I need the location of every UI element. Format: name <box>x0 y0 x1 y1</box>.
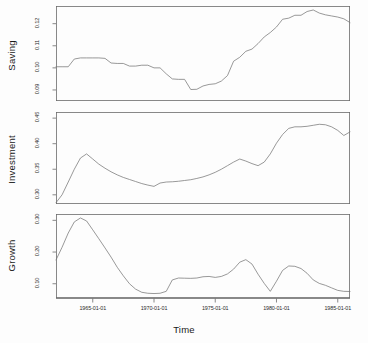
x-tick-label: 1975-01-01 <box>191 305 239 311</box>
x-axis: 1965-01-011970-01-011975-01-011980-01-01… <box>0 296 368 343</box>
panel-growth: Growth <box>0 208 368 308</box>
x-tick-label: 1965-01-01 <box>69 305 117 311</box>
axis-title-growth: Growth <box>6 228 17 284</box>
x-tick-label: 1970-01-01 <box>130 305 178 311</box>
plot-area-saving <box>0 0 368 112</box>
y-tick-label: 0.40 <box>34 130 40 156</box>
panel-saving: Saving <box>0 0 368 112</box>
y-tick-label: 0.10 <box>34 270 40 296</box>
x-tick-label: 1980-01-01 <box>252 305 300 311</box>
axis-title-time: Time <box>0 324 368 335</box>
plot-area-investment <box>0 106 368 214</box>
x-tick-label: 1985-01-01 <box>314 305 362 311</box>
axis-title-saving: Saving <box>6 31 17 81</box>
y-tick-label: 0.35 <box>34 155 40 181</box>
panel-investment: Investment <box>0 106 368 214</box>
y-tick-label: 0.45 <box>34 104 40 130</box>
axis-title-investment: Investment <box>6 128 17 192</box>
y-tick-label: 0.20 <box>34 238 40 264</box>
rplot-figure: Saving Investment Growth 1965-01-011970-… <box>0 0 368 343</box>
plot-area-growth <box>0 208 368 308</box>
y-tick-label: 0.30 <box>34 206 40 232</box>
y-tick-label: 0.30 <box>34 181 40 207</box>
y-tick-label: 0.12 <box>34 10 40 36</box>
